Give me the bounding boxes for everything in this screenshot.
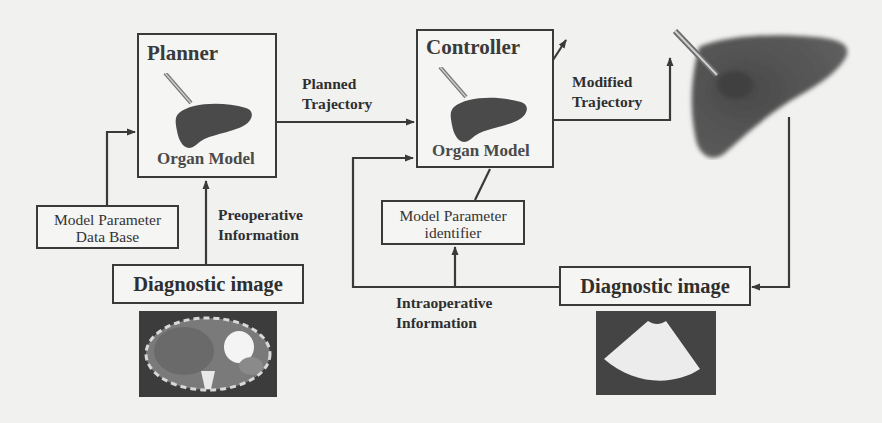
db-to-planner-arrow (107, 132, 135, 205)
liver-needle-icon (161, 73, 261, 153)
planner-box: Planner Organ Model (137, 33, 277, 178)
preoperative-information-label: Preoperative Information (218, 205, 303, 245)
diagnostic-image-right-label: Diagnostic image (561, 269, 749, 303)
controller-organ-label: Organ Model (432, 141, 530, 161)
modified-trajectory-label: Modified Trajectory (572, 72, 642, 112)
controller-title: Controller (426, 35, 520, 60)
controller-box: Controller Organ Model (416, 29, 554, 168)
controller-output-arrow (553, 40, 566, 60)
identifier-to-controller-line (475, 169, 490, 200)
model-parameter-identifier-box: Model Parameter identifier (381, 200, 525, 245)
planner-organ-label: Organ Model (157, 149, 255, 169)
target-liver-organ-image (665, 25, 855, 160)
ct-scan-image (139, 311, 277, 397)
liver-needle-icon (436, 67, 536, 147)
model-parameter-database-box: Model Parameter Data Base (36, 205, 179, 249)
diagnostic-image-left-box: Diagnostic image (112, 264, 304, 304)
intraoperative-information-label: Intraoperative Information (396, 293, 492, 333)
diagnostic-image-right-box: Diagnostic image (559, 266, 751, 306)
planner-title: Planner (147, 41, 218, 66)
planned-trajectory-label: Planned Trajectory (302, 74, 372, 114)
ultrasound-image (596, 311, 716, 395)
diagnostic-image-left-label: Diagnostic image (114, 267, 302, 301)
